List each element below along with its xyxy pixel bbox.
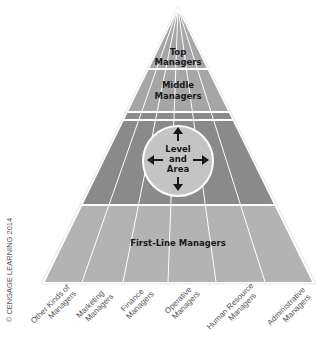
label-level: Level [165,144,190,154]
copyright-text: © CENGAGE LEARNING 2014 [5,218,14,322]
area-labels: Other Kinds of Managers Marketing Manage… [29,281,314,338]
label-top-1: Top [170,47,187,57]
copyright-notice: © CENGAGE LEARNING 2014 [2,195,16,345]
label-first-line: First-Line Managers [130,238,226,248]
label-top-2: Managers [154,57,201,67]
label-middle-2: Managers [154,91,201,101]
managers-pyramid-diagram: Top Managers Middle Managers Level and A… [0,0,330,352]
label-and: and [169,154,187,164]
label-area: Area [167,164,190,174]
label-middle-1: Middle [162,80,194,90]
